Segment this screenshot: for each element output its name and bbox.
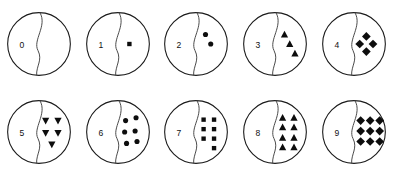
card-graphic: 1 [80,6,156,82]
number-card-7[interactable]: 7 [157,88,236,176]
digit-label: 7 [177,128,182,138]
circle-outline [244,101,307,164]
circle-outline [322,101,385,164]
circle-outline [244,13,307,76]
token-circle [133,115,138,120]
digit-label: 6 [98,128,103,138]
token-square [202,136,206,140]
card-graphic: 5 [1,94,77,170]
number-card-9[interactable]: 9 [314,88,393,176]
card-row-bottom: 56789 [0,88,393,176]
digit-label: 2 [177,40,182,50]
token-square [202,127,206,131]
token-square [212,127,216,131]
card-graphic: 0 [1,6,77,82]
card-graphic: 8 [237,94,313,170]
card-graphic: 6 [80,94,156,170]
card-graphic: 2 [158,6,234,82]
token-square [212,136,216,140]
number-card-0[interactable]: 0 [0,0,79,88]
circle-outline [165,13,228,76]
circle-outline [165,101,228,164]
token-circle [123,118,128,123]
digit-label: 9 [334,128,339,138]
token-square [202,117,206,121]
card-graphic: 3 [237,6,313,82]
digit-label: 3 [256,40,261,50]
number-card-5[interactable]: 5 [0,88,79,176]
digit-label: 5 [20,128,25,138]
token-circle [203,32,208,37]
card-graphic: 4 [316,6,392,82]
card-graphic: 9 [316,94,392,170]
token-group [127,42,131,46]
circle-outline [87,101,150,164]
digit-label: 0 [20,40,25,50]
token-circle [209,41,214,46]
number-card-8[interactable]: 8 [236,88,315,176]
token-circle [122,129,127,134]
number-card-3[interactable]: 3 [236,0,315,88]
token-square [127,42,131,46]
circle-outline [8,13,71,76]
digit-label: 1 [98,40,103,50]
number-cards-figure: 01234 56789 [0,0,393,177]
number-card-2[interactable]: 2 [157,0,236,88]
card-row-top: 01234 [0,0,393,88]
token-circle [124,141,129,146]
token-square [212,117,216,121]
token-square [212,146,216,150]
digit-label: 8 [256,128,261,138]
digit-label: 4 [334,40,339,50]
number-card-4[interactable]: 4 [314,0,393,88]
token-group [356,116,384,146]
card-graphic: 7 [158,94,234,170]
token-circle [132,128,137,133]
number-card-1[interactable]: 1 [79,0,158,88]
token-circle [134,139,139,144]
number-card-6[interactable]: 6 [79,88,158,176]
circle-outline [8,101,71,164]
circle-outline [87,13,150,76]
